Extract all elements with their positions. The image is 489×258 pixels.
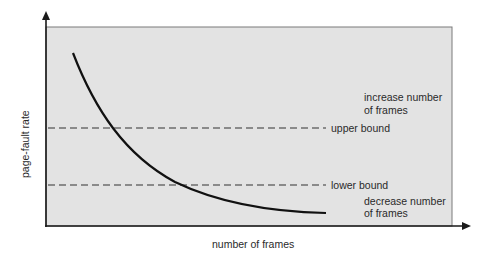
increase-frames-line1: increase number [364, 91, 442, 104]
lower-bound-label: lower bound [331, 179, 388, 192]
increase-frames-line2: of frames [364, 104, 408, 117]
y-axis-arrow-icon [42, 11, 50, 20]
x-axis-arrow-icon [462, 222, 471, 230]
y-axis-label: page-fault rate [19, 110, 31, 178]
x-axis-label: number of frames [212, 238, 294, 251]
chart-canvas [0, 0, 489, 258]
upper-bound-label: upper bound [331, 122, 390, 135]
decrease-frames-line2: of frames [364, 207, 408, 220]
